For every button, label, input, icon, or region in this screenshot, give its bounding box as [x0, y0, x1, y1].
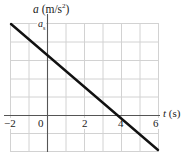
a-s-label: as — [37, 19, 46, 31]
x-axis-variable: t — [163, 107, 166, 119]
x-tick-minus-2: −2 — [4, 118, 16, 129]
x-axis-label: t (s) — [163, 108, 180, 119]
y-axis-unit: (m/s — [42, 3, 62, 15]
y-axis-label: a (m/s2) — [33, 3, 69, 15]
x-tick-0: 0 — [38, 118, 44, 129]
acceleration-time-graph — [0, 0, 182, 154]
x-tick-4: 4 — [118, 118, 124, 129]
y-axis-unit-close: ) — [66, 3, 70, 15]
x-axis-unit: (s) — [169, 107, 181, 119]
y-axis-variable: a — [33, 3, 39, 15]
x-tick-6: 6 — [153, 118, 159, 129]
x-tick-2: 2 — [82, 118, 88, 129]
